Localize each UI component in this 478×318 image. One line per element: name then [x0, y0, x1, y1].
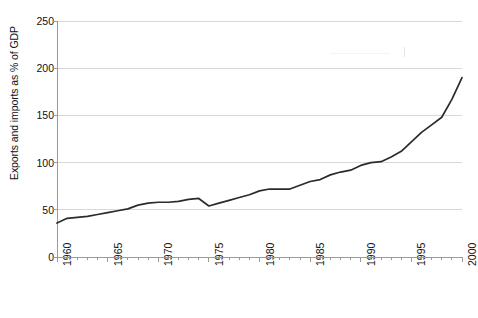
- gridlines: [57, 21, 462, 257]
- axis-lines: [57, 21, 462, 257]
- data-line-series-0: [57, 78, 462, 223]
- y-axis-ticks: [53, 21, 57, 257]
